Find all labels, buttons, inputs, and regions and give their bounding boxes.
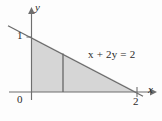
y-axis-arrow-icon: [28, 7, 35, 14]
x-axis-label: x: [148, 84, 153, 95]
origin-label: 0: [17, 94, 23, 105]
line-equation-label: x + 2y = 2: [88, 49, 135, 60]
x-tick-label-2: 2: [133, 96, 139, 107]
y-tick-label-1: 1: [17, 30, 23, 41]
shaded-region: [32, 37, 138, 92]
y-axis-label: y: [35, 2, 40, 13]
figure-container: y x 1 0 2 x + 2y = 2: [0, 0, 162, 121]
